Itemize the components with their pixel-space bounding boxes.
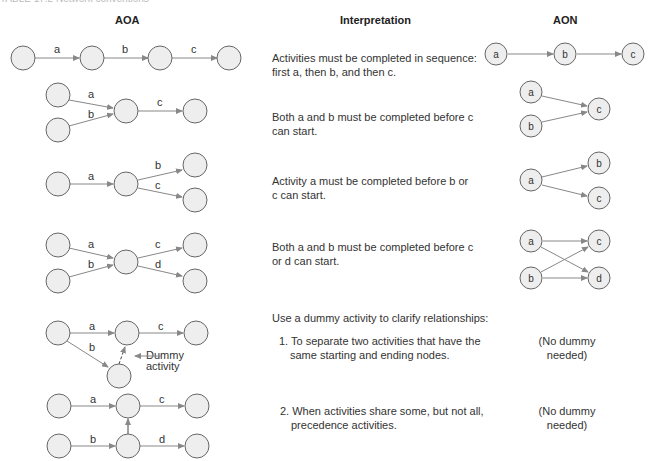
svg-text:d: d (155, 258, 161, 270)
svg-text:c: c (597, 104, 602, 115)
svg-text:b: b (528, 273, 534, 284)
svg-text:c: c (597, 236, 602, 247)
aon-row-1: a b c (485, 43, 644, 65)
svg-text:a: a (88, 238, 95, 250)
svg-text:a: a (493, 49, 499, 60)
aoa-dummy-case-1: a b c (46, 320, 208, 388)
svg-text:c: c (155, 238, 161, 250)
aon-row-4: a b c d (520, 230, 610, 289)
aon-row-2: a b c (520, 81, 610, 137)
network-diagrams: a b c a b c a b c a (0, 0, 659, 461)
svg-text:c: c (155, 179, 161, 191)
svg-text:a: a (88, 88, 95, 100)
svg-text:c: c (597, 193, 602, 204)
svg-text:c: c (158, 320, 164, 332)
svg-text:c: c (157, 96, 163, 108)
svg-text:a: a (90, 393, 97, 405)
svg-text:c: c (191, 43, 197, 55)
svg-text:c: c (159, 393, 165, 405)
svg-text:a: a (88, 170, 95, 182)
aoa-row-1: a b c (11, 43, 241, 70)
svg-text:d: d (596, 273, 602, 284)
svg-text:b: b (596, 158, 602, 169)
aoa-row-4: a b c d (46, 233, 207, 293)
aoa-row-2: a b c (46, 83, 207, 142)
aon-row-3: a b c (520, 152, 610, 209)
svg-text:c: c (631, 49, 636, 60)
svg-text:b: b (155, 159, 161, 171)
svg-text:b: b (90, 433, 96, 445)
svg-text:b: b (528, 121, 534, 132)
svg-text:b: b (89, 341, 95, 353)
svg-text:b: b (88, 258, 94, 270)
svg-text:b: b (88, 108, 94, 120)
svg-text:a: a (54, 43, 61, 55)
svg-text:a: a (528, 87, 534, 98)
svg-text:b: b (562, 49, 568, 60)
aoa-dummy-case-2: a c b d (47, 393, 209, 458)
svg-text:a: a (89, 320, 96, 332)
svg-text:a: a (528, 236, 534, 247)
svg-text:d: d (159, 433, 165, 445)
svg-text:a: a (528, 175, 534, 186)
svg-text:b: b (122, 43, 128, 55)
aoa-row-3: a b c (46, 153, 207, 212)
